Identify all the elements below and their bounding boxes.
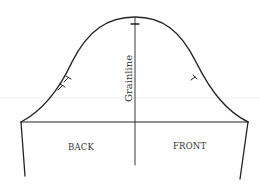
- front-notch: [191, 75, 197, 80]
- grainline-label: Grainline: [123, 55, 134, 102]
- sleeve-pattern-diagram: Grainline BACK FRONT: [0, 0, 260, 192]
- back-label: BACK: [68, 142, 94, 152]
- sleeve-cap-curve: [21, 17, 248, 122]
- front-underarm-seam: [240, 122, 248, 179]
- back-underarm-seam: [21, 122, 25, 176]
- front-label: FRONT: [173, 141, 207, 151]
